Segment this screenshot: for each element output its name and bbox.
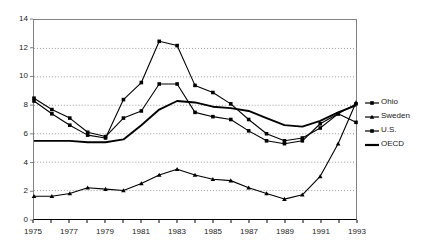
legend-item-label: OECD	[381, 139, 404, 148]
x-tick-label: 1979	[88, 228, 122, 236]
legend-item-u-s[interactable]: U.S.	[364, 122, 430, 136]
x-tick-label: 1991	[304, 228, 338, 236]
line-chart: 02468101214 1975197719791981198319851987…	[0, 0, 431, 250]
x-tick-label: 1977	[52, 228, 86, 236]
chart-legend: OhioSwedenU.S.OECD	[364, 94, 430, 150]
legend-item-label: Sweden	[381, 111, 410, 120]
legend-item-sweden[interactable]: Sweden	[364, 108, 430, 122]
x-tick-label: 1993	[340, 228, 374, 236]
legend-item-label: Ohio	[381, 97, 398, 106]
x-tick-label: 1985	[196, 228, 230, 236]
x-tick-label: 1989	[268, 228, 302, 236]
legend-item-oecd[interactable]: OECD	[364, 136, 430, 150]
plain-thick-line-icon	[364, 137, 381, 149]
legend-item-label: U.S.	[381, 125, 397, 134]
triangle-marker-line-icon	[364, 109, 381, 121]
x-tick-label: 1987	[232, 228, 266, 236]
data-point-marker	[370, 101, 374, 105]
x-tick-label: 1981	[124, 228, 158, 236]
x-tick-label: 1975	[16, 228, 50, 236]
data-point-marker	[370, 129, 374, 133]
square-marker-line-icon	[364, 95, 381, 107]
legend-item-ohio[interactable]: Ohio	[364, 94, 430, 108]
square-marker-line-icon	[364, 123, 381, 135]
x-tick-label: 1983	[160, 228, 194, 236]
